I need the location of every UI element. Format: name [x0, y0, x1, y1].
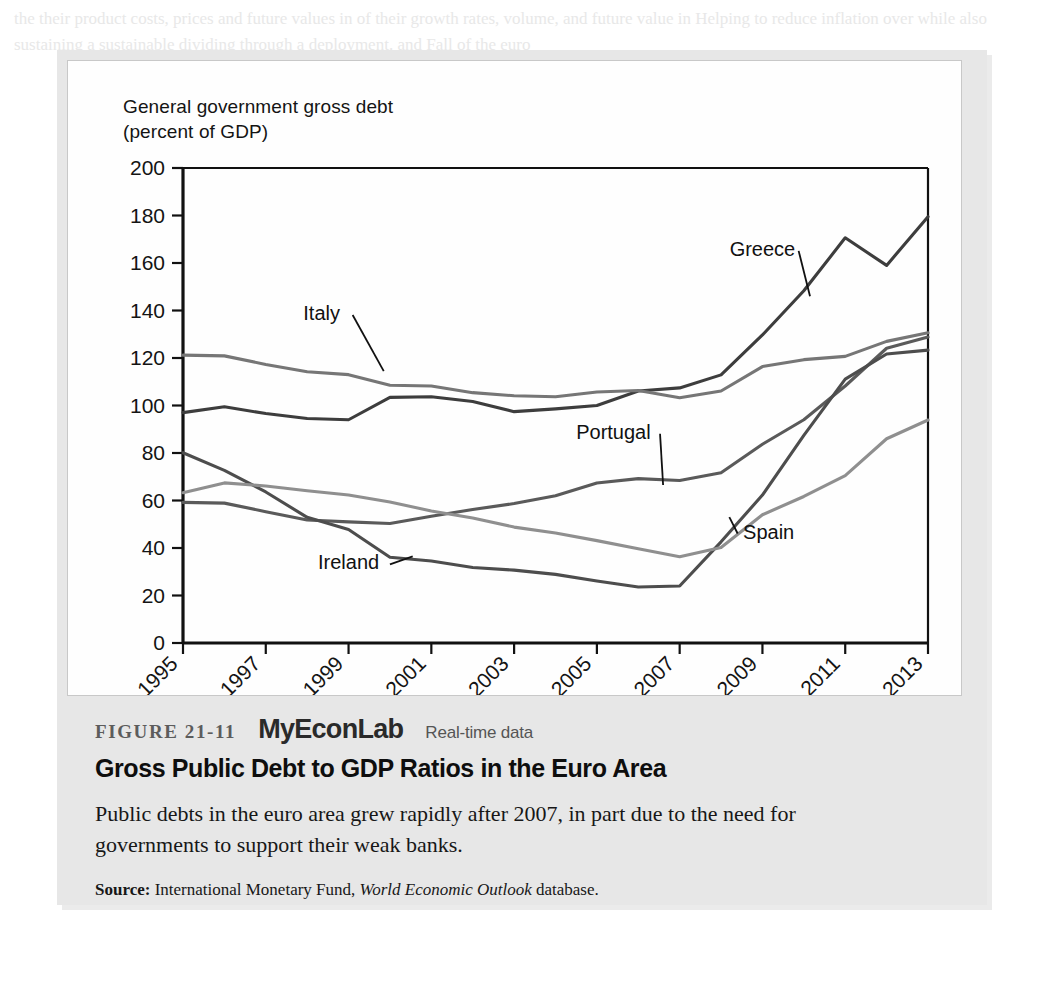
y-tick-label: 180 — [130, 204, 165, 227]
source-suffix: database. — [536, 880, 599, 899]
myeconlab-brand[interactable]: MyEconLab — [258, 714, 403, 745]
source-organization: International Monetary Fund, — [155, 880, 356, 899]
x-tick-label: 2001 — [381, 652, 430, 695]
figure-source: Source: International Monetary Fund, Wor… — [95, 880, 955, 900]
chart-panel: General government gross debt (percent o… — [67, 60, 962, 696]
series-label-portugal: Portugal — [576, 421, 651, 443]
series-label-italy: Italy — [303, 302, 340, 324]
x-tick-label: 2013 — [878, 652, 927, 695]
series-line-portugal — [183, 337, 928, 523]
x-tick-label: 2009 — [712, 652, 761, 695]
y-tick-label: 0 — [153, 631, 165, 654]
y-tick-label: 120 — [130, 346, 165, 369]
x-tick-label: 2007 — [629, 652, 678, 695]
series-leader-italy — [353, 315, 384, 371]
y-tick-label: 20 — [142, 584, 165, 607]
series-leader-portugal — [660, 434, 663, 485]
x-tick-label: 2005 — [546, 652, 595, 695]
series-label-ireland: Ireland — [318, 551, 379, 573]
figure-card: General government gross debt (percent o… — [57, 50, 987, 905]
y-tick-label: 160 — [130, 251, 165, 274]
y-tick-label: 140 — [130, 299, 165, 322]
y-tick-label: 80 — [142, 441, 165, 464]
series-line-greece — [183, 217, 928, 420]
source-publication: World Economic Outlook — [360, 880, 532, 899]
x-axis-tick-group: 1995199719992001200320052007200920112013 — [133, 643, 928, 695]
y-tick-label: 200 — [130, 156, 165, 179]
series-label-spain: Spain — [743, 521, 794, 543]
y-axis-tick-group: 020406080100120140160180200 — [130, 156, 183, 654]
source-label: Source: — [95, 880, 150, 899]
x-tick-label: 1999 — [298, 652, 347, 695]
x-tick-label: 1997 — [215, 652, 264, 695]
y-tick-label: 40 — [142, 536, 165, 559]
x-tick-label: 1995 — [133, 652, 182, 695]
series-line-spain — [183, 420, 928, 557]
y-tick-label: 60 — [142, 489, 165, 512]
figure-caption: FIGURE 21-11 MyEconLab Real-time data Gr… — [95, 714, 955, 900]
line-chart-plot: 020406080100120140160180200 199519971999… — [68, 61, 961, 695]
series-label-greece: Greece — [730, 238, 796, 260]
real-time-data-tag: Real-time data — [425, 723, 533, 743]
series-line-italy — [183, 333, 928, 398]
figure-number: FIGURE 21-11 — [95, 721, 236, 743]
figure-title: Gross Public Debt to GDP Ratios in the E… — [95, 754, 955, 783]
x-tick-label: 2003 — [464, 652, 513, 695]
series-group — [183, 217, 928, 587]
figure-description: Public debts in the euro area grew rapid… — [95, 798, 885, 860]
series-line-ireland — [183, 350, 928, 587]
figure-header-row: FIGURE 21-11 MyEconLab Real-time data — [95, 714, 955, 745]
x-tick-label: 2011 — [796, 652, 844, 695]
y-tick-label: 100 — [130, 394, 165, 417]
